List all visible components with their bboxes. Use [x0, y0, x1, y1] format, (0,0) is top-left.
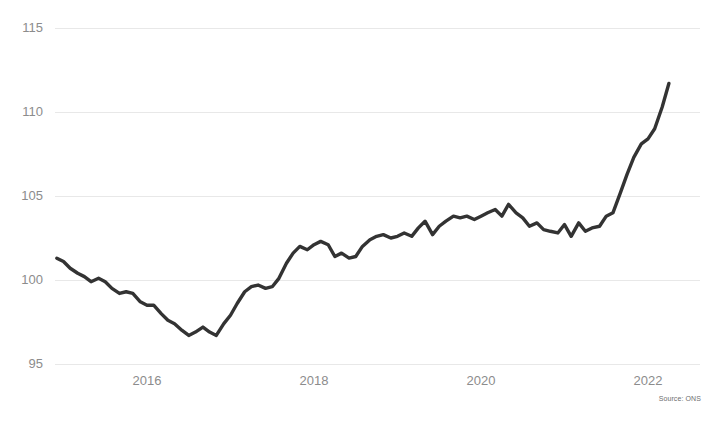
series-lines [57, 83, 669, 335]
gridlines [55, 29, 700, 365]
y-axis-tick-label: 95 [29, 356, 43, 371]
source-note: Source: ONS [659, 395, 701, 402]
y-axis-tick-label: 100 [21, 272, 43, 287]
y-axis-tick-label: 105 [21, 188, 43, 203]
y-axis-tick-label: 115 [22, 20, 43, 35]
x-axis-tick-labels: 2016201820202022 [133, 373, 663, 388]
chart-canvas: 95100105110115 2016201820202022 [0, 0, 708, 424]
series-line [57, 83, 669, 335]
x-axis-tick-label: 2020 [467, 373, 496, 388]
x-axis-tick-label: 2016 [133, 373, 162, 388]
line-chart: 95100105110115 2016201820202022 Source: … [0, 0, 708, 424]
x-axis-tick-label: 2022 [634, 373, 663, 388]
y-axis-tick-label: 110 [22, 104, 43, 119]
y-axis-tick-labels: 95100105110115 [21, 20, 43, 371]
x-axis-tick-label: 2018 [300, 373, 329, 388]
